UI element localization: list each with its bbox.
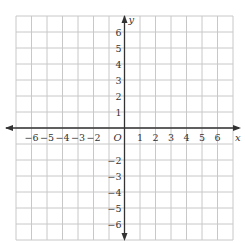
x-tick-label: 2 — [152, 132, 158, 143]
x-tick-label: −6 — [24, 132, 38, 143]
origin-label: O — [113, 132, 121, 143]
x-axis-left-arrow-icon — [5, 125, 13, 131]
y-tick-label: −3 — [107, 171, 121, 182]
x-tick-label: 4 — [183, 132, 189, 143]
x-tick-label: 3 — [168, 132, 174, 143]
y-tick-label: 5 — [115, 43, 121, 54]
y-tick-label: −2 — [107, 155, 121, 166]
x-tick-label: 6 — [214, 132, 220, 143]
x-tick-label: −3 — [71, 132, 85, 143]
y-tick-label: 6 — [115, 27, 121, 38]
y-tick-label: 4 — [115, 59, 121, 70]
y-tick-label: 2 — [115, 91, 121, 102]
y-tick-label: −6 — [107, 219, 121, 230]
x-axis-name: x — [235, 132, 241, 143]
y-tick-label: −4 — [107, 187, 121, 198]
x-tick-label: −4 — [55, 132, 69, 143]
x-tick-label: 1 — [137, 132, 143, 143]
coordinate-plane: −6−5−4−3−2123456654321−2−3−4−5−6Oxy — [0, 0, 245, 243]
y-tick-label: 3 — [115, 75, 121, 86]
x-tick-label: −2 — [86, 132, 100, 143]
x-axis-right-arrow-icon — [233, 125, 241, 131]
y-tick-label: 1 — [115, 107, 121, 118]
x-tick-label: 5 — [199, 132, 205, 143]
x-tick-label: −5 — [40, 132, 54, 143]
y-tick-label: −5 — [107, 203, 121, 214]
y-axis-name: y — [128, 14, 135, 25]
